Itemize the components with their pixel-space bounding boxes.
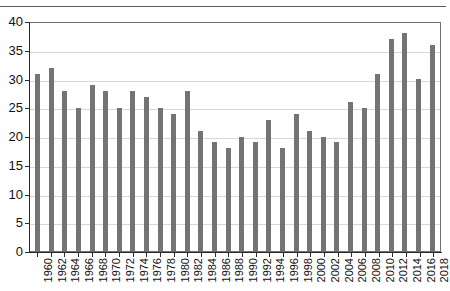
x-tick-mark: [379, 253, 380, 257]
bar-slot: [316, 23, 330, 251]
x-axis-tick: 1982: [180, 253, 194, 291]
x-tick-mark: [420, 253, 421, 257]
x-tick-mark: [242, 253, 243, 257]
x-tick-mark: [64, 253, 65, 257]
y-tick-label: 30: [9, 72, 23, 87]
bar-slot: [425, 23, 439, 251]
bar: [90, 85, 95, 251]
x-tick-mark: [215, 253, 216, 257]
y-tick-mark: [25, 22, 29, 23]
bar-slot: [330, 23, 344, 251]
x-tick-mark: [324, 253, 325, 257]
plot-area: [29, 22, 441, 252]
bar-slot: [384, 23, 398, 251]
x-tick-mark: [256, 253, 257, 257]
x-tick-mark: [283, 253, 284, 257]
x-axis-tick: 1996: [276, 253, 290, 291]
y-tick-label: 35: [9, 43, 23, 58]
bar: [130, 91, 135, 251]
y-axis-tick: 20: [0, 137, 29, 138]
x-axis-tick: 1968: [85, 253, 99, 291]
bar-slot: [126, 23, 140, 251]
bar-slot: [194, 23, 208, 251]
bar-slot: [153, 23, 167, 251]
y-axis-tick: 25: [0, 108, 29, 109]
bar: [158, 108, 163, 251]
x-axis-tick: 1972: [112, 253, 126, 291]
x-tick-mark: [78, 253, 79, 257]
bar: [226, 148, 231, 251]
x-tick-mark: [365, 253, 366, 257]
bar-slot: [208, 23, 222, 251]
x-axis-tick: 1988: [221, 253, 235, 291]
bar-slot: [72, 23, 86, 251]
bar: [212, 142, 217, 251]
x-axis-tick: 2010: [372, 253, 386, 291]
bar: [280, 148, 285, 251]
y-axis-tick: 10: [0, 195, 29, 196]
bar: [49, 68, 54, 251]
bar: [253, 142, 258, 251]
x-tick-mark: [406, 253, 407, 257]
bar-slot: [99, 23, 113, 251]
x-tick-mark: [433, 253, 434, 257]
y-axis-line: [29, 22, 30, 253]
y-tick-mark: [25, 223, 29, 224]
x-axis-tick: 1970: [98, 253, 112, 291]
x-axis-tick: 2016: [413, 253, 427, 291]
bar: [103, 91, 108, 251]
x-axis-tick: 2000: [303, 253, 317, 291]
x-tick-mark: [201, 253, 202, 257]
bar-slot: [371, 23, 385, 251]
bar-slot: [58, 23, 72, 251]
x-tick-mark: [392, 253, 393, 257]
y-axis-tick: 35: [0, 51, 29, 52]
bar-slot: [85, 23, 99, 251]
bar: [62, 91, 67, 251]
bar-slot: [249, 23, 263, 251]
y-tick-label: 20: [9, 129, 23, 144]
bar-slot: [357, 23, 371, 251]
x-tick-mark: [338, 253, 339, 257]
bar-series: [30, 23, 440, 251]
bar: [334, 142, 339, 251]
x-tick-mark: [174, 253, 175, 257]
y-tick-mark: [25, 51, 29, 52]
x-axis-tick: 2018: [426, 253, 440, 291]
y-tick-mark: [25, 195, 29, 196]
bar: [117, 108, 122, 251]
bar: [375, 74, 380, 251]
x-axis-tick: 2008: [358, 253, 372, 291]
bar: [144, 97, 149, 251]
x-axis-tick: 1974: [126, 253, 140, 291]
x-tick-mark: [160, 253, 161, 257]
y-tick-mark: [25, 108, 29, 109]
x-tick-mark: [187, 253, 188, 257]
x-tick-label: 2018: [438, 258, 450, 282]
x-axis-tick: 1980: [167, 253, 181, 291]
y-tick-label: 5: [16, 215, 23, 230]
bar: [430, 45, 435, 251]
bar: [239, 137, 244, 251]
bar-slot: [262, 23, 276, 251]
x-axis-tick: 1964: [57, 253, 71, 291]
bar-slot: [140, 23, 154, 251]
bar: [171, 114, 176, 251]
bar: [389, 39, 394, 251]
x-tick-mark: [37, 253, 38, 257]
y-tick-label: 10: [9, 187, 23, 202]
x-tick-mark: [119, 253, 120, 257]
x-axis-tick: 1966: [71, 253, 85, 291]
x-tick-mark: [228, 253, 229, 257]
bar: [185, 91, 190, 251]
x-axis-tick: 2004: [331, 253, 345, 291]
bar: [307, 131, 312, 251]
x-axis-tick: 1986: [208, 253, 222, 291]
x-axis-tick: 1962: [44, 253, 58, 291]
bar-slot: [167, 23, 181, 251]
y-axis-tick: 40: [0, 22, 29, 23]
bar-slot: [412, 23, 426, 251]
y-axis-tick: 30: [0, 80, 29, 81]
y-tick-label: 40: [9, 14, 23, 29]
